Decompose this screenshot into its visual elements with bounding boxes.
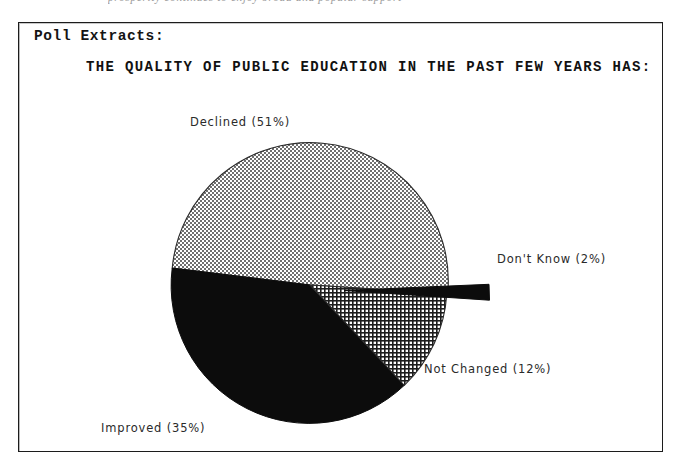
cropped-scan-text-line: prosperity continues to enjoy broad and … — [108, 0, 548, 7]
poll-question-heading: THE QUALITY OF PUBLIC EDUCATION IN THE P… — [86, 59, 652, 75]
poll-extracts-label: Poll Extracts: — [34, 28, 164, 44]
poll-extract-box — [18, 22, 663, 452]
